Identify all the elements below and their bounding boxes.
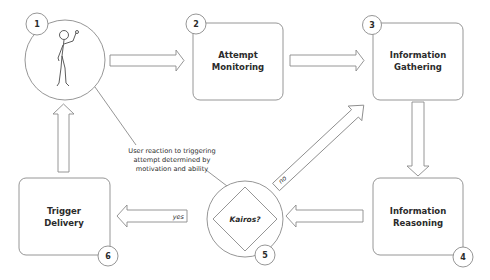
node-6-number: 6: [105, 252, 111, 261]
arrow-2-to-3: [290, 50, 364, 71]
node-3-number: 3: [369, 21, 375, 30]
node-2-number: 2: [193, 20, 199, 29]
node-6-label-line-1: Trigger: [47, 206, 82, 216]
node-information-reasoning: [373, 178, 463, 255]
annotation-line-2: attempt determined by: [134, 156, 211, 164]
node-5-number: 5: [262, 251, 268, 260]
node-6-label-line-2: Delivery: [44, 218, 84, 228]
arrow-6-to-1: [53, 104, 74, 172]
node-3-label-line-1: Information: [390, 50, 446, 60]
flow-diagram: 1 2 3 4 5 6 Attempt Monitoring Informati…: [0, 0, 490, 280]
annotation-line-3: motivation and ability: [136, 165, 208, 173]
edge-yes-label: yes: [172, 213, 185, 221]
arrow-1-to-2: [110, 50, 184, 71]
node-2-label-line-1: Attempt: [218, 50, 257, 60]
node-trigger-delivery: [19, 178, 110, 255]
arrow-4-to-5: [286, 205, 363, 227]
annotation-line-bottom: [206, 170, 227, 186]
arrow-3-to-4: [407, 102, 429, 176]
node-2-label-line-2: Monitoring: [212, 62, 264, 72]
annotation-line-top: [95, 87, 136, 145]
node-4-label-line-2: Reasoning: [393, 218, 443, 228]
node-4-number: 4: [460, 253, 466, 262]
annotation-line-1: User reaction to triggering: [128, 147, 215, 155]
node-4-label-line-1: Information: [390, 206, 446, 216]
node-3-label-line-2: Gathering: [394, 62, 442, 72]
decision-label: Kairos?: [229, 215, 261, 224]
node-1-number: 1: [34, 20, 40, 29]
